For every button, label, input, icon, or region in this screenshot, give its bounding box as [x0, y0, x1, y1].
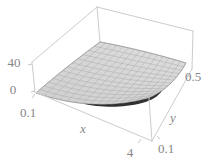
- y-axis-tick-label-min: 0.1: [154, 142, 178, 155]
- x-axis-label: x: [71, 122, 95, 135]
- z-axis-tick-label-0: 0: [1, 83, 25, 96]
- surface-plot-figure: 40 0 0.1 x 4 0.1 y 0.5: [0, 0, 209, 167]
- y-axis-label: y: [161, 111, 185, 124]
- z-axis-tick-label-40: 40: [2, 56, 26, 69]
- y-axis-tick-label-max: 0.5: [181, 70, 205, 83]
- x-axis-tick-label-min: 0.1: [16, 106, 40, 119]
- x-axis-tick-label-max: 4: [118, 146, 142, 159]
